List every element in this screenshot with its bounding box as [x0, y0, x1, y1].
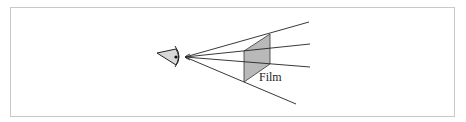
film-label: Film: [259, 70, 282, 84]
eye-icon: [157, 46, 190, 67]
perspective-diagram: Film: [0, 0, 466, 122]
